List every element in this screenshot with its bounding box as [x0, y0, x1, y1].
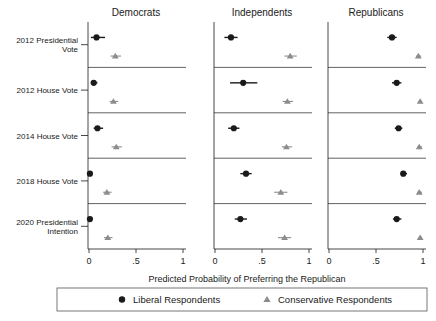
x-tick-label-0-0: 0	[86, 256, 91, 266]
x-axis-title: Predicted Probability of Preferring the …	[148, 274, 345, 284]
row-label-4: Intention	[47, 227, 78, 236]
x-tick-label-0-2: 1	[180, 256, 185, 266]
point-liberal-0-1	[91, 80, 97, 86]
row-label-1: 2012 House Vote	[17, 86, 79, 95]
point-liberal-2-4	[394, 216, 400, 222]
legend: Liberal RespondentsConservative Responde…	[57, 288, 427, 311]
legend-marker-circle	[119, 296, 125, 302]
point-liberal-1-3	[243, 171, 249, 177]
coefficient-plot: DemocratsIndependentsRepublicans 2012 Pr…	[0, 0, 436, 321]
point-liberal-0-3	[87, 171, 93, 177]
point-liberal-0-2	[94, 125, 100, 131]
x-tick-label-2-0: 0	[326, 256, 331, 266]
panel-title-group: DemocratsIndependentsRepublicans	[112, 7, 404, 18]
point-liberal-2-1	[394, 80, 400, 86]
point-liberal-2-2	[395, 125, 401, 131]
point-liberal-2-3	[400, 171, 406, 177]
point-liberal-0-4	[87, 216, 93, 222]
point-liberal-2-0	[389, 34, 395, 40]
point-liberal-1-4	[237, 216, 243, 222]
legend-label-1: Conservative Respondents	[278, 294, 392, 305]
row-label-4: 2020 Presidential	[16, 218, 78, 227]
row-label-3: 2018 House Vote	[17, 177, 79, 186]
tick-group: 0.510.510.51	[86, 249, 425, 266]
legend-marker-triangle	[263, 296, 270, 302]
point-conservative-2-1	[417, 98, 424, 104]
axis-group	[88, 22, 426, 249]
point-liberal-1-0	[228, 34, 234, 40]
point-liberal-1-1	[240, 80, 246, 86]
x-tick-label-1-2: 1	[306, 256, 311, 266]
row-label-0: Vote	[62, 45, 79, 54]
row-label-2: 2014 House Vote	[17, 132, 79, 141]
data-marks-group	[87, 34, 424, 240]
x-tick-label-2-2: 1	[420, 256, 425, 266]
panel-title-independents: Independents	[232, 7, 293, 18]
legend-label-0: Liberal Respondents	[133, 294, 220, 305]
row-separator-group	[88, 67, 426, 203]
point-liberal-1-2	[231, 125, 237, 131]
x-tick-label-1-1: .5	[258, 256, 266, 266]
row-label-0: 2012 Presidential	[16, 36, 78, 45]
x-tick-label-1-0: 0	[212, 256, 217, 266]
x-tick-label-0-1: .5	[132, 256, 140, 266]
row-label-group: 2012 PresidentialVote2012 House Vote2014…	[16, 36, 88, 236]
panel-title-democrats: Democrats	[112, 7, 160, 18]
x-tick-label-2-1: .5	[372, 256, 380, 266]
panel-title-republicans: Republicans	[348, 7, 403, 18]
point-liberal-0-0	[93, 34, 99, 40]
point-conservative-2-4	[417, 234, 424, 240]
